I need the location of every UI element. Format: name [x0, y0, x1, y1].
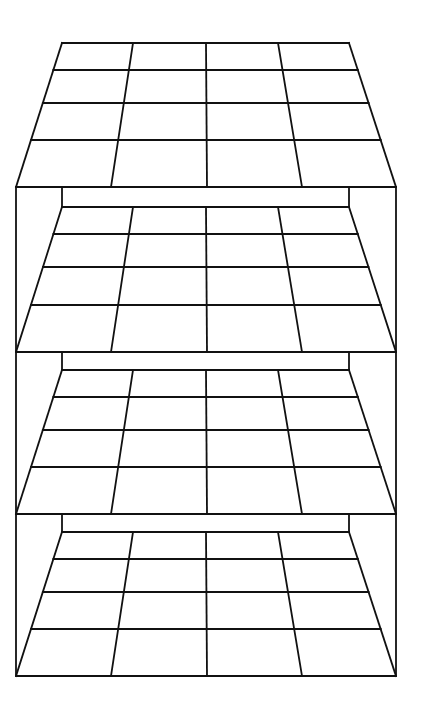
- level-shelf-1: [16, 187, 396, 352]
- floor-column-line: [206, 43, 207, 187]
- floor-side-edge: [349, 43, 396, 187]
- floor-side-edge: [16, 370, 62, 514]
- floor-column-line: [111, 43, 133, 187]
- floor-side-edge: [349, 207, 396, 352]
- floor-column-line: [111, 370, 133, 514]
- floor-side-edge: [16, 43, 62, 187]
- floor-column-line: [278, 207, 302, 352]
- floor-column-line: [206, 207, 207, 352]
- stacked-grid-diagram: [0, 0, 431, 717]
- floor-column-line: [111, 207, 133, 352]
- floor-column-line: [111, 532, 133, 676]
- level-shelf-3: [16, 514, 396, 676]
- floor-column-line: [206, 532, 207, 676]
- floor-column-line: [206, 370, 207, 514]
- floor-side-edge: [349, 532, 396, 676]
- floor-column-line: [278, 370, 302, 514]
- floor-side-edge: [349, 370, 396, 514]
- level-shelf-2: [16, 352, 396, 514]
- level-top-roof: [16, 43, 396, 187]
- levels-group: [16, 43, 396, 676]
- floor-side-edge: [16, 207, 62, 352]
- floor-column-line: [278, 532, 302, 676]
- floor-column-line: [278, 43, 302, 187]
- floor-side-edge: [16, 532, 62, 676]
